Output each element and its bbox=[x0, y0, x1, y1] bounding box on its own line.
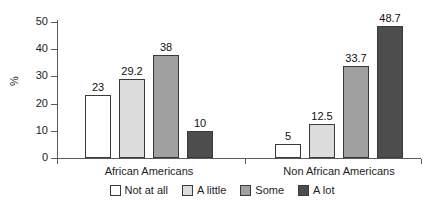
legend-label: Some bbox=[255, 184, 284, 196]
x-axis-category-label: Non African Americans bbox=[249, 165, 429, 177]
y-axis-tick-label: 20 bbox=[22, 98, 48, 109]
legend-swatch-icon bbox=[110, 185, 121, 196]
x-axis-tick bbox=[421, 159, 422, 164]
legend-label: A lot bbox=[313, 184, 334, 196]
legend-item-not-at-all[interactable]: Not at all bbox=[110, 184, 168, 196]
y-axis-tick-label: 10 bbox=[22, 125, 48, 136]
bar-value-label: 23 bbox=[78, 81, 118, 93]
y-axis-tick-label: 0 bbox=[22, 152, 48, 163]
bar-value-label: 33.7 bbox=[336, 52, 376, 64]
bar-value-label: 29.2 bbox=[112, 65, 152, 77]
legend-item-a-lot[interactable]: A lot bbox=[298, 184, 334, 196]
plot-area: 2329.23810512.533.748.7 bbox=[57, 22, 421, 158]
x-axis-tick bbox=[245, 159, 246, 164]
bar-a-little bbox=[309, 124, 335, 158]
bar-value-label: 48.7 bbox=[370, 12, 410, 24]
bar-not-at-all bbox=[85, 95, 111, 158]
legend-item-some[interactable]: Some bbox=[240, 184, 284, 196]
bar-not-at-all bbox=[275, 144, 301, 158]
legend-label: Not at all bbox=[125, 184, 168, 196]
legend: Not at allA littleSomeA lot bbox=[0, 184, 444, 196]
bar-value-label: 12.5 bbox=[302, 110, 342, 122]
bar-value-label: 5 bbox=[268, 130, 308, 142]
x-axis-line bbox=[57, 158, 421, 159]
y-axis-tick-label: 50 bbox=[22, 16, 48, 27]
y-axis-tick-label: 30 bbox=[22, 70, 48, 81]
legend-swatch-icon bbox=[240, 185, 251, 196]
y-axis-tick-label: 40 bbox=[22, 43, 48, 54]
bar-chart: % 01020304050 2329.23810512.533.748.7 Af… bbox=[0, 0, 444, 210]
bar-some bbox=[153, 55, 179, 158]
legend-swatch-icon bbox=[298, 185, 309, 196]
bar-a-lot bbox=[187, 131, 213, 158]
x-axis-category-label: African Americans bbox=[59, 165, 239, 177]
bar-some bbox=[343, 66, 369, 158]
bar-a-little bbox=[119, 79, 145, 158]
x-axis-tick bbox=[57, 159, 58, 164]
bar-value-label: 10 bbox=[180, 117, 220, 129]
bar-value-label: 38 bbox=[146, 41, 186, 53]
legend-item-a-little[interactable]: A little bbox=[182, 184, 226, 196]
bar-a-lot bbox=[377, 26, 403, 158]
y-axis-title: % bbox=[8, 76, 20, 86]
legend-swatch-icon bbox=[182, 185, 193, 196]
legend-label: A little bbox=[197, 184, 226, 196]
